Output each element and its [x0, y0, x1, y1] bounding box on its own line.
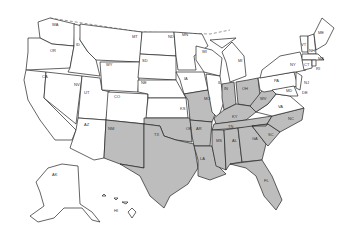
- label-ca: CA: [42, 74, 48, 79]
- label-ak: AK: [52, 172, 58, 177]
- state-wi: [196, 46, 222, 76]
- label-ga: GA: [252, 136, 258, 141]
- label-wa: WA: [52, 22, 59, 27]
- label-or: OR: [50, 48, 56, 53]
- label-tn: TN: [228, 124, 233, 129]
- state-nj: [296, 72, 302, 90]
- label-oh: OH: [242, 86, 248, 91]
- label-nh: NH: [309, 48, 315, 53]
- state-ak: [30, 164, 100, 222]
- label-ne: NE: [141, 80, 147, 85]
- label-pa: PA: [274, 78, 279, 83]
- label-ri: RI: [316, 66, 320, 71]
- label-az: AZ: [84, 122, 90, 127]
- state-me: [314, 18, 334, 50]
- label-wi: WI: [202, 49, 207, 54]
- label-md: MD: [286, 88, 292, 93]
- label-id: ID: [76, 42, 80, 47]
- label-ut: UT: [84, 90, 90, 95]
- label-ct: CT: [304, 62, 310, 67]
- label-hi: HI: [114, 208, 118, 213]
- label-co: CO: [114, 94, 120, 99]
- state-hi: [102, 194, 136, 218]
- label-ok: OK: [186, 126, 192, 131]
- label-ks: KS: [180, 106, 186, 111]
- label-mo: MO: [204, 96, 210, 101]
- label-al: AL: [232, 138, 238, 143]
- label-nd: ND: [168, 34, 174, 39]
- label-tx: TX: [154, 132, 159, 137]
- label-me: ME: [318, 30, 324, 35]
- label-ma: MA: [318, 56, 324, 61]
- label-nv: NV: [74, 82, 80, 87]
- label-sc: SC: [268, 132, 274, 137]
- label-nj: NJ: [304, 80, 309, 85]
- state-co: [106, 92, 148, 124]
- label-sd: SD: [142, 58, 148, 63]
- label-la: LA: [200, 156, 205, 161]
- label-ia: IA: [184, 76, 188, 81]
- label-ky: KY: [232, 114, 238, 119]
- label-va: VA: [278, 104, 283, 109]
- us-map: WA OR CA ID NV UT AZ MT WY CO NM ND SD N…: [0, 0, 352, 244]
- label-wv: WV: [260, 96, 267, 101]
- label-wy: WY: [106, 62, 113, 67]
- label-mn: MN: [182, 32, 188, 37]
- label-de: DE: [302, 90, 308, 95]
- label-ny: NY: [290, 62, 296, 67]
- label-nc: NC: [288, 116, 294, 121]
- label-ar: AR: [196, 126, 202, 131]
- label-mt: MT: [132, 34, 138, 39]
- label-nm: NM: [108, 126, 114, 131]
- state-fl: [230, 160, 282, 210]
- label-vt: VT: [301, 42, 307, 47]
- label-in: IN: [224, 86, 228, 91]
- label-mi: MI: [238, 58, 242, 63]
- label-fl: FL: [264, 178, 269, 183]
- state-ar: [190, 120, 212, 146]
- label-ms: MS: [216, 138, 222, 143]
